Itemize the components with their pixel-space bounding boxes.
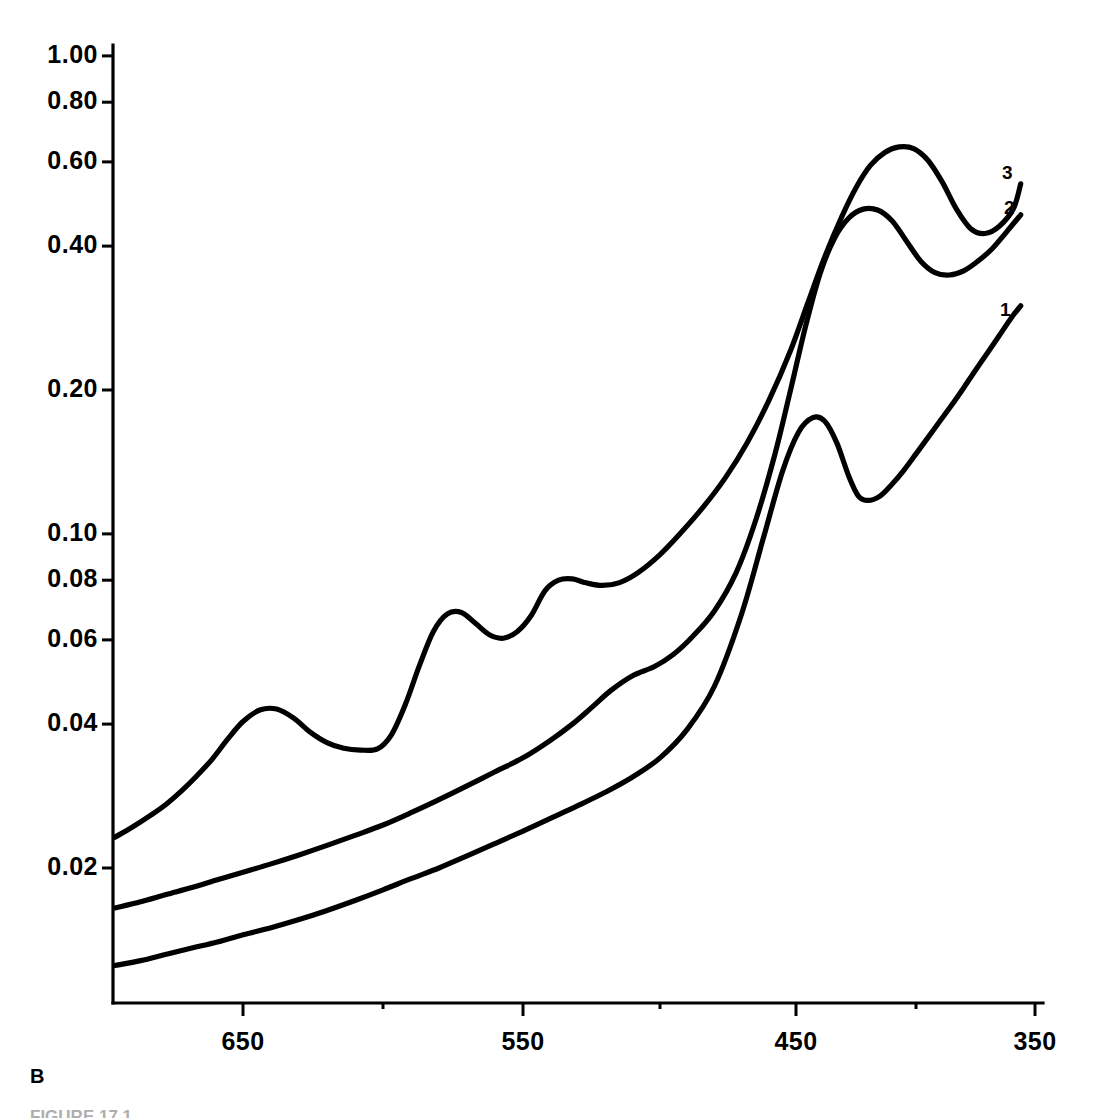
x-tick-label: 350	[990, 1029, 1080, 1054]
panel-label: B	[30, 1066, 44, 1086]
figure-panel-b: 1.000.800.600.400.200.100.080.060.040.02…	[0, 0, 1111, 1118]
plot-axes	[113, 45, 1043, 1003]
spectrum-curve-1	[115, 306, 1021, 966]
y-tick-label: 0.20	[8, 376, 98, 401]
y-tick-label: 0.06	[8, 626, 98, 651]
y-tick-label: 0.60	[8, 148, 98, 173]
y-tick-label: 0.02	[8, 854, 98, 879]
spectrum-plot-svg	[0, 0, 1111, 1118]
spectrum-curve-2	[115, 208, 1021, 908]
spectrum-curves	[115, 147, 1021, 966]
curve-label-1: 1	[1000, 300, 1011, 319]
y-tick-label: 0.04	[8, 710, 98, 735]
y-tick-label: 0.40	[8, 232, 98, 257]
x-axis-ticks	[243, 1003, 1035, 1016]
curve-label-3: 3	[1002, 163, 1013, 182]
x-tick-label: 550	[478, 1029, 568, 1054]
x-tick-label: 450	[751, 1029, 841, 1054]
y-tick-label: 0.80	[8, 88, 98, 113]
figure-caption-partial: FIGURE 17.1	[30, 1108, 132, 1118]
y-axis-ticks	[102, 56, 113, 868]
y-tick-label: 1.00	[8, 42, 98, 67]
x-tick-label: 650	[198, 1029, 288, 1054]
y-tick-label: 0.08	[8, 566, 98, 591]
y-tick-label: 0.10	[8, 520, 98, 545]
curve-label-2: 2	[1004, 198, 1015, 217]
